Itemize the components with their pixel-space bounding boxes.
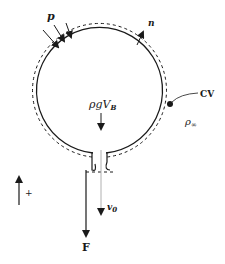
control-volume-boundary (33, 23, 167, 157)
bubble-surface (37, 27, 163, 153)
pressure-label: p (47, 10, 55, 23)
nozzle-right-lip (106, 152, 110, 170)
nozzle-left-lip (92, 152, 96, 170)
ambient-density-label: ρ∞ (184, 116, 197, 129)
normal-label: n (148, 18, 155, 28)
control-volume-label: CV (200, 89, 215, 99)
velocity-label: v0 (107, 202, 117, 214)
force-label: F (82, 241, 90, 254)
bubble-control-volume-diagram: p n ρgVB CV ρ∞ F v0 + (0, 0, 225, 264)
control-volume-leader (172, 93, 198, 102)
buoyancy-label: ρgVB (88, 98, 116, 112)
positive-direction-label: + (25, 188, 33, 198)
velocity-arrowhead (97, 208, 105, 216)
